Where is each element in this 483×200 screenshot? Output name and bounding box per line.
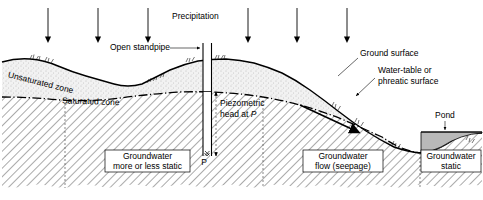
groundwater-cross-section-svg: Precipitation P Open standpipe Piezometr…: [0, 0, 483, 200]
point-p-label: P: [201, 157, 207, 167]
zone-box-line1: Groundwater: [123, 151, 172, 161]
saturated-zone-label: Saturated zone: [62, 95, 120, 107]
ground-surface-leader: [338, 58, 358, 76]
zone-box-groundwater-flow: Groundwater flow (seepage): [303, 150, 383, 172]
zone-box-groundwater-static-left: Groundwater more or less static: [105, 150, 190, 172]
zone-box-line2: more or less static: [113, 161, 183, 171]
zone-box-line1: Groundwater: [426, 151, 475, 161]
water-table-label-line2: phreatic surface: [378, 76, 439, 86]
water-table-leader: [356, 78, 375, 96]
open-standpipe-label: Open standpipe: [110, 42, 170, 52]
open-standpipe: [203, 43, 212, 156]
zone-box-line2: static: [441, 161, 462, 171]
piezometric-head-prefix: head at: [220, 109, 251, 119]
diagram-canvas: Precipitation P Open standpipe Piezometr…: [0, 0, 483, 200]
pond-label: Pond: [435, 110, 455, 120]
precipitation-label: Precipitation: [172, 11, 219, 21]
piezometric-head-point: P: [251, 109, 257, 119]
water-table-label-line1: Water-table or: [378, 65, 432, 75]
zone-box-line2: flow (seepage): [315, 161, 371, 171]
piezometric-head-label-line1: Piezometric: [220, 98, 265, 108]
zone-box-groundwater-static-right: Groundwater static: [421, 150, 481, 172]
ground-surface-label: Ground surface: [360, 48, 419, 58]
piezometric-head-label-line2: head at P: [220, 109, 257, 119]
zone-box-line1: Groundwater: [318, 151, 367, 161]
